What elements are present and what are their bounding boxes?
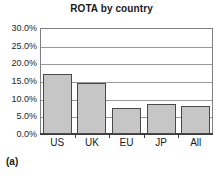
y-axis-tick-label: 5.0% <box>0 111 37 121</box>
chart-figure: ROTA by country 0.0%5.0%10.0%15.0%20.0%2… <box>0 0 223 176</box>
y-axis-tick-label: 10.0% <box>0 94 37 104</box>
gridline <box>41 47 212 48</box>
x-axis-tick-label: JP <box>155 137 167 148</box>
x-axis-tick-mark <box>109 134 110 138</box>
bar <box>147 104 176 134</box>
x-axis-tick-mark <box>75 134 76 138</box>
x-axis-tick-label: US <box>50 137 64 148</box>
y-axis-tick-label: 0.0% <box>0 129 37 139</box>
x-axis-tick-mark <box>144 134 145 138</box>
bar <box>77 83 106 134</box>
bar <box>181 106 210 134</box>
bar <box>112 108 141 134</box>
gridline <box>41 64 212 65</box>
bar <box>43 74 72 134</box>
x-axis-tick-label: UK <box>85 137 99 148</box>
x-axis-tick-mark <box>178 134 179 138</box>
x-axis-tick-label: EU <box>120 137 134 148</box>
figure-caption: (a) <box>6 156 18 167</box>
y-axis-tick-labels: 0.0%5.0%10.0%15.0%20.0%25.0%30.0% <box>0 0 37 176</box>
y-axis-tick-label: 30.0% <box>0 23 37 33</box>
y-axis-tick-label: 20.0% <box>0 58 37 68</box>
x-axis-tick-label: All <box>190 137 201 148</box>
y-axis-tick-label: 25.0% <box>0 41 37 51</box>
y-axis-tick-label: 15.0% <box>0 76 37 86</box>
